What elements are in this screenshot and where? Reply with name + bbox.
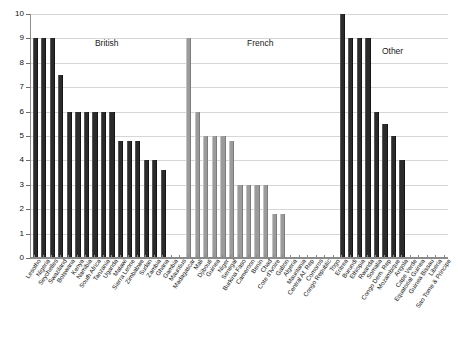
y-axis-label-8: 8: [20, 59, 24, 67]
y-axis-label-3: 3: [20, 181, 24, 189]
bar: [58, 75, 63, 258]
plot-area: 012345678910 BritishFrenchOther: [30, 14, 448, 258]
bar: [195, 112, 200, 258]
bar: [382, 124, 387, 258]
y-axis-label-10: 10: [15, 10, 24, 18]
x-tick: [393, 255, 394, 258]
bar: [357, 38, 362, 258]
bar: [348, 38, 353, 258]
y-axis-label-0: 0: [20, 254, 24, 262]
bar: [220, 136, 225, 258]
bar: [41, 38, 46, 258]
x-tick: [103, 255, 104, 258]
bar: [152, 160, 157, 258]
bar: [340, 14, 345, 258]
x-tick: [120, 255, 121, 258]
bar: [67, 112, 72, 258]
bar: [50, 38, 55, 258]
bar: [118, 141, 123, 258]
bar: [280, 214, 285, 258]
bar: [161, 170, 166, 258]
y-axis-label-5: 5: [20, 132, 24, 140]
bar: [374, 112, 379, 258]
bar: [33, 38, 38, 258]
bar: [365, 38, 370, 258]
group-label-other: Other: [382, 46, 403, 56]
y-axis-label-1: 1: [20, 230, 24, 238]
bar: [272, 214, 277, 258]
y-axis-label-6: 6: [20, 108, 24, 116]
bar-chart: 012345678910 BritishFrenchOther LesothoN…: [0, 0, 458, 359]
bar: [237, 185, 242, 258]
x-axis-category-labels: LesothoNigeriaSeychellesSwazilandBotswan…: [30, 258, 448, 359]
y-axis-label-4: 4: [20, 156, 24, 164]
y-axis-label-9: 9: [20, 34, 24, 42]
bar: [84, 112, 89, 258]
bar: [144, 160, 149, 258]
x-tick: [248, 255, 249, 258]
bar: [254, 185, 259, 258]
bar: [109, 112, 114, 258]
bar: [127, 141, 132, 258]
group-label-french: French: [247, 38, 273, 48]
group-label-british: British: [95, 38, 119, 48]
bar: [92, 112, 97, 258]
bar: [101, 112, 106, 258]
bar: [399, 160, 404, 258]
bar: [391, 136, 396, 258]
bar: [75, 112, 80, 258]
x-tick: [265, 255, 266, 258]
bar: [186, 38, 191, 258]
bar: [203, 136, 208, 258]
y-axis-label-2: 2: [20, 205, 24, 213]
bar: [229, 141, 234, 258]
bar: [135, 141, 140, 258]
bar: [212, 136, 217, 258]
bar: [246, 185, 251, 258]
y-axis-label-7: 7: [20, 83, 24, 91]
bar: [263, 185, 268, 258]
